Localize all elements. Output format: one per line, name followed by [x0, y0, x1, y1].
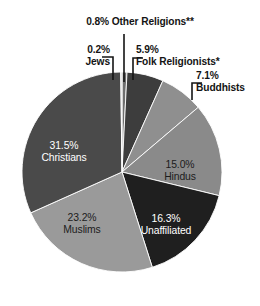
callout-percent-other-religions: 0.8% [86, 16, 109, 27]
callout-name-jews: Jews [48, 56, 110, 68]
callout-name-folk-religionists: Folk Religionists* [136, 56, 220, 68]
callout-name-other-religions: Other Religions** [112, 16, 194, 27]
callout-percent-buddhists: 7.1% [196, 70, 245, 82]
slice-name-muslims: Muslims [36, 224, 128, 236]
slice-percent-christians: 31.5% [16, 140, 112, 152]
callout-name-buddhists: Buddhists [196, 82, 245, 94]
callout-percent-folk-religionists: 5.9% [136, 44, 220, 56]
callout-label-buddhists: 7.1% Buddhists [196, 70, 245, 93]
slice-name-christians: Christians [16, 152, 112, 164]
slice-percent-muslims: 23.2% [36, 212, 128, 224]
callout-label-other-religions: 0.8% Other Religions** [50, 16, 230, 28]
slice-label-muslims: 23.2% Muslims [36, 212, 128, 236]
slice-percent-unaffiliated: 16.3% [120, 213, 212, 225]
slice-label-unaffiliated: 16.3% Unaffiliated [120, 213, 212, 237]
slice-name-unaffiliated: Unaffiliated [120, 225, 212, 237]
callout-label-folk-religionists: 5.9% Folk Religionists* [136, 44, 220, 67]
pie-chart: 0.8% Other Religions** 0.2% Jews 5.9% Fo… [0, 0, 260, 306]
callout-label-jews: 0.2% Jews [48, 44, 110, 67]
slice-label-hindus: 15.0% Hindus [140, 159, 220, 183]
slice-name-hindus: Hindus [140, 171, 220, 183]
slice-percent-hindus: 15.0% [140, 159, 220, 171]
slice-label-christians: 31.5% Christians [16, 140, 112, 164]
callout-percent-jews: 0.2% [48, 44, 110, 56]
